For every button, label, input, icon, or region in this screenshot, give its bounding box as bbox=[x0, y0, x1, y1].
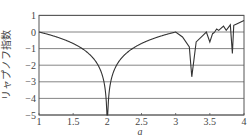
x-tick-label: 1.5 bbox=[67, 116, 80, 127]
y-tick-label: 1 bbox=[31, 10, 36, 21]
lyapunov-chart: 10−1−2−3−4−5 11.522.533.54 a リャプノフ指数 bbox=[0, 0, 250, 140]
y-tick-label: −2 bbox=[25, 60, 36, 71]
y-axis-ticks: 10−1−2−3−4−5 bbox=[25, 10, 36, 121]
y-tick-label: −5 bbox=[25, 110, 36, 121]
x-tick-label: 3.5 bbox=[204, 116, 217, 127]
y-axis-label: リャプノフ指数 bbox=[0, 30, 12, 100]
x-tick-label: 3 bbox=[173, 116, 178, 127]
x-tick-label: 2 bbox=[105, 116, 110, 127]
x-tick-label: 4 bbox=[242, 116, 247, 127]
y-tick-label: −3 bbox=[25, 76, 36, 87]
lyapunov-curve bbox=[39, 21, 244, 115]
y-tick-label: 0 bbox=[31, 27, 36, 38]
y-tick-label: −4 bbox=[25, 93, 36, 104]
x-tick-label: 1 bbox=[37, 116, 42, 127]
y-tick-label: −1 bbox=[25, 43, 36, 54]
x-axis-ticks: 11.522.533.54 bbox=[37, 113, 247, 127]
grid-lines bbox=[39, 15, 244, 115]
x-axis-label: a bbox=[138, 126, 143, 137]
